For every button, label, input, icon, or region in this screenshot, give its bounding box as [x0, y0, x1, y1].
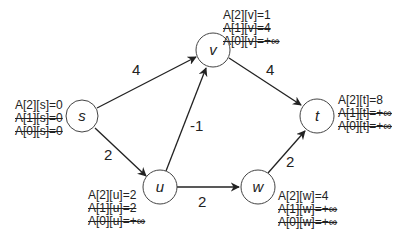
annotation-u-a0: A[0][u]=+∞ [88, 215, 145, 228]
annotation-v-a0: A[0][v]=+∞ [223, 35, 280, 48]
annotation-s: A[2][s]=0 A[1][s]=0 A[0][s]=0 [15, 99, 63, 138]
edge-s-v: 4 [97, 57, 196, 108]
annotation-w-a0: A[0][w]=+∞ [278, 216, 337, 229]
edge-weight-s-u: 2 [104, 146, 112, 163]
node-label-w: w [253, 178, 265, 195]
edge-u-v: -1 [166, 68, 206, 171]
edge-weight-s-v: 4 [132, 61, 140, 78]
annotation-t-a0: A[0][t]=+∞ [338, 120, 392, 133]
edge-weight-u-w: 2 [198, 193, 206, 210]
node-label-u: u [156, 178, 165, 195]
annotation-s-a0: A[0][s]=0 [15, 125, 63, 138]
annotation-t: A[2][t]=8 A[1][t]=+∞ A[0][t]=+∞ [338, 94, 392, 133]
annotation-w: A[2][w]=4 A[1][w]=+∞ A[0][w]=+∞ [278, 190, 337, 229]
edge-weight-u-v: -1 [190, 117, 203, 134]
annotation-v: A[2][v]=1 A[1][v]=4 A[0][v]=+∞ [223, 9, 280, 48]
edge-s-u: 2 [95, 128, 146, 176]
edge-w-t: 2 [268, 131, 305, 173]
edge-u-w: 2 [177, 187, 239, 210]
edge-weight-w-t: 2 [286, 153, 294, 170]
node-label-s: s [78, 107, 86, 124]
annotation-u: A[2][u]=2 A[1][u]=2 A[0][u]=+∞ [88, 189, 145, 228]
edge-weight-v-t: 4 [266, 61, 274, 78]
node-t: t [300, 99, 334, 133]
node-w: w [241, 170, 275, 204]
node-u: u [143, 170, 177, 204]
edge-v-t: 4 [229, 58, 301, 105]
node-s: s [66, 100, 98, 132]
